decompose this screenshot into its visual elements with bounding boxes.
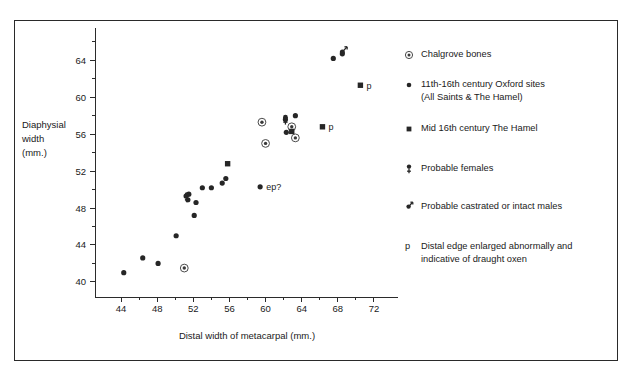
legend-label-line2: indicative of draught oxen (421, 253, 614, 266)
data-point (331, 56, 336, 61)
legend-label: Distal edge enlarged abnormally and (421, 240, 614, 253)
square-icon (404, 122, 418, 135)
female-symbol-icon (404, 162, 418, 175)
y-tick-label: 52 (75, 166, 86, 177)
data-points-layer: ep?pp (121, 47, 371, 275)
legend-label: 11th-16th century Oxford sites (421, 78, 614, 91)
data-point (121, 270, 126, 275)
point-annotation: p (328, 122, 333, 132)
data-point (258, 118, 266, 126)
x-tick-label: 52 (188, 303, 199, 314)
dot-icon (404, 78, 418, 91)
legend-label: Probable females (421, 162, 614, 175)
legend-item-hamel-mid16th: Mid 16th century The Hamel (404, 122, 614, 162)
data-point (284, 130, 289, 135)
point-annotation: p (366, 81, 371, 91)
data-point (140, 255, 145, 260)
data-point: p (358, 81, 372, 91)
legend-item-probable-males: Probable castrated or intact males (404, 200, 614, 240)
data-point (174, 233, 179, 238)
y-tick-label: 60 (75, 92, 86, 103)
data-point (180, 264, 188, 272)
data-point (209, 185, 214, 190)
legend-label: Mid 16th century The Hamel (421, 122, 614, 135)
data-point (155, 261, 160, 266)
data-point: p (320, 122, 334, 132)
data-point (192, 213, 197, 218)
data-point (223, 176, 228, 181)
figure-root: Diaphysial width (mm.) 44485256606468724… (0, 0, 635, 381)
male-symbol-icon (404, 200, 418, 213)
circled-dot-icon (404, 48, 418, 61)
legend-label: Probable castrated or intact males (421, 200, 614, 213)
x-axis-title: Distal width of metacarpal (mm.) (179, 330, 315, 341)
x-tick-label: 56 (224, 303, 235, 314)
data-point (193, 200, 198, 205)
p-letter-icon: p (405, 240, 410, 253)
y-tick-label: 64 (75, 55, 86, 66)
x-tick-label: 64 (296, 303, 307, 314)
y-tick-label: 56 (75, 129, 86, 140)
data-point (289, 129, 294, 134)
y-tick-label: 48 (75, 203, 86, 214)
y-tick-label: 40 (75, 276, 86, 287)
data-point (200, 185, 205, 190)
data-point: ep? (258, 182, 282, 192)
data-point (291, 134, 299, 142)
legend-item-oxford-sites: 11th-16th century Oxford sites (All Sain… (404, 78, 614, 122)
legend-label-line2: (All Saints & The Hamel) (421, 91, 614, 104)
x-tick-label: 48 (152, 303, 163, 314)
data-point (262, 140, 270, 148)
legend-item-draught-oxen-note: p Distal edge enlarged abnormally and in… (404, 240, 614, 270)
x-tick-label: 44 (116, 303, 127, 314)
x-tick-label: 68 (333, 303, 344, 314)
legend: Chalgrove bones 11th-16th century Oxford… (404, 48, 614, 270)
x-tick-label: 60 (260, 303, 271, 314)
data-point (220, 181, 225, 186)
y-tick-label: 44 (75, 239, 86, 250)
x-tick-label: 72 (369, 303, 380, 314)
legend-item-chalgrove-bones: Chalgrove bones (404, 48, 614, 78)
point-annotation: ep? (266, 182, 281, 192)
legend-label: Chalgrove bones (421, 48, 614, 61)
legend-item-probable-females: Probable females (404, 162, 614, 200)
data-point (293, 113, 298, 118)
data-point (225, 161, 230, 166)
data-point (340, 47, 347, 55)
